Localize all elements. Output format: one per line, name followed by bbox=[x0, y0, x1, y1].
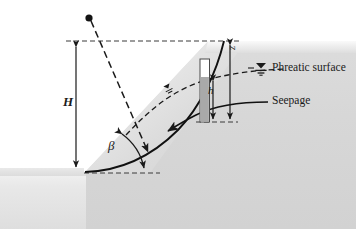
source-point-marker bbox=[85, 14, 92, 21]
pressure-head-label: h bbox=[208, 85, 214, 96]
slope-diagram-svg bbox=[0, 0, 356, 229]
slope-height-label: H bbox=[63, 95, 73, 108]
phreatic-surface-label: Phreatic surface bbox=[272, 62, 346, 74]
ground-terrace bbox=[0, 168, 86, 229]
seepage-label: Seepage bbox=[272, 95, 310, 107]
depth-label: z bbox=[226, 46, 237, 50]
soil-mass bbox=[0, 0, 356, 229]
slope-angle-label: β bbox=[108, 139, 114, 152]
figure-root: Phreatic surface Seepage H β h z bbox=[0, 0, 356, 229]
air-top bbox=[0, 0, 356, 41]
ground-terrace-top bbox=[0, 168, 86, 176]
